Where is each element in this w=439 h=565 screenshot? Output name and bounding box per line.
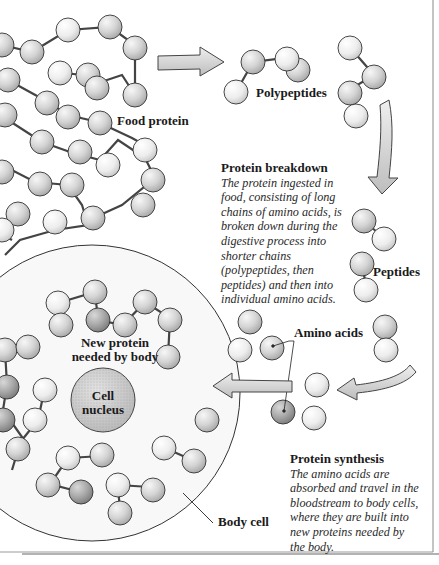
caption-breakdown-title: Protein breakdown [221,161,371,176]
caption-synthesis-title: Protein synthesis [290,452,435,467]
caption-protein-breakdown: Protein breakdown The protein ingested i… [221,161,371,307]
label-cell-nucleus-line1: Cell [73,389,133,403]
arrow-right-icon [158,47,224,76]
label-cell-nucleus: Cell nucleus [73,389,133,417]
label-polypeptides: Polypeptides [256,86,327,100]
caption-breakdown-line: chains of amino acids, is [221,205,371,220]
caption-synthesis-line: where they are built into [290,510,435,525]
label-peptides: Peptides [373,265,420,279]
caption-breakdown-line: food, consisting of long [221,190,371,205]
polypeptide-chains [224,36,386,128]
caption-breakdown-line: shorter chains [221,249,371,264]
label-food-protein: Food protein [117,114,189,128]
caption-synthesis-line: bloodstream to body cells, [290,496,435,511]
caption-protein-synthesis: Protein synthesis The amino acids are ab… [290,452,435,554]
caption-synthesis-line: The amino acids are [290,467,435,482]
food-protein-chains [0,15,165,255]
caption-breakdown-line: digestive process into [221,234,371,249]
arrow-left-curved-icon [337,365,416,400]
caption-breakdown-line: peptides) and then into [221,278,371,293]
label-cell-nucleus-line2: nucleus [73,403,133,417]
caption-breakdown-line: broken down during the [221,219,371,234]
caption-synthesis-line: the body. [290,540,435,555]
label-body-cell: Body cell [218,515,269,529]
caption-synthesis-line: absorbed and travel in the [290,481,435,496]
label-new-protein-line1: New protein [70,336,160,350]
label-new-protein-line2: needed by body [70,350,160,364]
caption-synthesis-line: new proteins needed by [290,525,435,540]
caption-breakdown-line: individual amino acids. [221,292,371,307]
arrow-down-icon [368,100,398,194]
caption-breakdown-line: (polypeptides, then [221,263,371,278]
label-amino-acids: Amino acids [294,326,363,340]
label-new-protein: New protein needed by body [70,336,160,364]
caption-breakdown-line: The protein ingested in [221,176,371,191]
